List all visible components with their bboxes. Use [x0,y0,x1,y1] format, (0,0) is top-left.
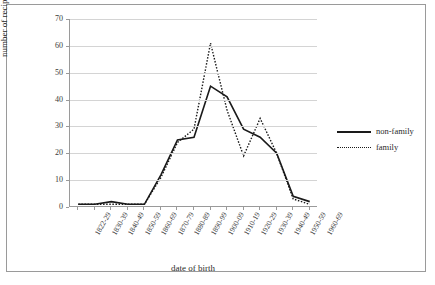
x-tick-label: 1960-69 [325,211,344,237]
y-tick-label: 30 [43,122,63,130]
y-tick-mark [66,73,69,74]
legend-label-family: family [376,142,398,152]
legend-label-non-family: non-family [376,126,414,136]
x-tick-mark [77,207,78,210]
x-tick-mark [243,207,244,210]
plot-area [69,19,317,207]
x-tick-mark [210,207,211,210]
legend-swatch-dotted [337,144,371,150]
y-tick-label: 70 [43,15,63,23]
legend-item-family: family [337,139,414,155]
y-tick-mark [66,180,69,181]
gridline [70,46,317,47]
y-axis-title: number of recipients [0,0,9,57]
gridline [70,153,317,154]
x-tick-mark [127,207,128,210]
x-tick-mark [259,207,260,210]
chart-legend: non-family family [337,123,414,155]
x-tick-mark [94,207,95,210]
y-tick-mark [66,126,69,127]
y-tick-label: 60 [43,42,63,50]
gridline [70,73,317,74]
gridline [70,100,317,101]
x-tick-mark [292,207,293,210]
y-tick-label: 40 [43,96,63,104]
x-axis-title: date of birth [69,263,317,273]
x-tick-mark [226,207,227,210]
y-tick-label: 0 [43,203,63,211]
y-tick-mark [66,100,69,101]
y-tick-label: 50 [43,69,63,77]
y-tick-mark [66,153,69,154]
gridline [70,180,317,181]
x-tick-mark [160,207,161,210]
chart-container: number of recipients 010203040506070 182… [0,0,435,285]
series-lines [70,19,318,207]
x-tick-mark [193,207,194,210]
y-tick-mark [66,46,69,47]
x-tick-mark [276,207,277,210]
x-tick-mark [176,207,177,210]
legend-swatch-solid [337,128,371,134]
x-tick-mark [309,207,310,210]
legend-item-non-family: non-family [337,123,414,139]
y-tick-label: 10 [43,176,63,184]
gridline [70,19,317,20]
y-tick-mark [66,207,69,208]
x-tick-mark [110,207,111,210]
series-line-non-family [78,86,309,204]
chart-frame: number of recipients 010203040506070 182… [6,4,426,272]
y-tick-label: 20 [43,149,63,157]
y-tick-mark [66,19,69,20]
x-tick-mark [143,207,144,210]
gridline [70,126,317,127]
